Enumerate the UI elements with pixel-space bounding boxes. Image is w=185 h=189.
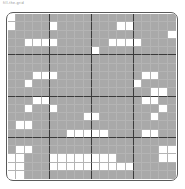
grid-cell[interactable] bbox=[100, 130, 108, 138]
grid-cell[interactable] bbox=[134, 113, 142, 121]
grid-cell[interactable] bbox=[50, 146, 58, 154]
grid-cell[interactable] bbox=[33, 14, 41, 22]
grid-cell[interactable] bbox=[16, 39, 24, 47]
grid-cell[interactable] bbox=[58, 88, 66, 96]
grid-cell[interactable] bbox=[75, 121, 83, 129]
grid-cell[interactable] bbox=[84, 97, 92, 105]
grid-cell[interactable] bbox=[134, 47, 142, 55]
grid-cell[interactable] bbox=[75, 14, 83, 22]
grid-cell[interactable] bbox=[151, 88, 159, 96]
grid-cell[interactable] bbox=[58, 22, 66, 30]
grid-cell[interactable] bbox=[58, 163, 66, 171]
grid-cell[interactable] bbox=[117, 80, 125, 88]
grid-cell[interactable] bbox=[8, 88, 16, 96]
grid-cell[interactable] bbox=[50, 14, 58, 22]
grid-cell[interactable] bbox=[84, 47, 92, 55]
grid-cell[interactable] bbox=[159, 88, 167, 96]
grid-cell[interactable] bbox=[92, 64, 100, 72]
grid-cell[interactable] bbox=[33, 130, 41, 138]
grid-cell[interactable] bbox=[42, 138, 50, 146]
grid-cell[interactable] bbox=[75, 39, 83, 47]
grid-cell[interactable] bbox=[100, 64, 108, 72]
grid-cell[interactable] bbox=[109, 105, 117, 113]
grid-cell[interactable] bbox=[100, 72, 108, 80]
grid-cell[interactable] bbox=[168, 14, 176, 22]
grid-cell[interactable] bbox=[50, 72, 58, 80]
grid-cell[interactable] bbox=[159, 105, 167, 113]
grid-cell[interactable] bbox=[8, 163, 16, 171]
grid-cell[interactable] bbox=[16, 88, 24, 96]
grid-cell[interactable] bbox=[67, 97, 75, 105]
grid-cell[interactable] bbox=[67, 55, 75, 63]
grid-cell[interactable] bbox=[109, 97, 117, 105]
grid-cell[interactable] bbox=[134, 146, 142, 154]
grid-cell[interactable] bbox=[58, 121, 66, 129]
grid-cell[interactable] bbox=[142, 72, 150, 80]
grid-cell[interactable] bbox=[33, 47, 41, 55]
grid-cell[interactable] bbox=[25, 72, 33, 80]
grid-cell[interactable] bbox=[126, 146, 134, 154]
grid-cell[interactable] bbox=[84, 113, 92, 121]
grid-cell[interactable] bbox=[168, 39, 176, 47]
grid-cell[interactable] bbox=[25, 22, 33, 30]
grid-cell[interactable] bbox=[25, 105, 33, 113]
grid-cell[interactable] bbox=[84, 146, 92, 154]
grid-cell[interactable] bbox=[67, 88, 75, 96]
grid-cell[interactable] bbox=[134, 88, 142, 96]
grid-cell[interactable] bbox=[168, 31, 176, 39]
grid-cell[interactable] bbox=[117, 55, 125, 63]
grid-cell[interactable] bbox=[8, 47, 16, 55]
grid-cell[interactable] bbox=[142, 88, 150, 96]
grid-cell[interactable] bbox=[33, 31, 41, 39]
grid-cell[interactable] bbox=[109, 146, 117, 154]
grid-cell[interactable] bbox=[109, 31, 117, 39]
grid-cell[interactable] bbox=[142, 80, 150, 88]
grid-cell[interactable] bbox=[33, 55, 41, 63]
grid-cell[interactable] bbox=[126, 121, 134, 129]
grid-cell[interactable] bbox=[42, 14, 50, 22]
grid-cell[interactable] bbox=[16, 22, 24, 30]
grid-cell[interactable] bbox=[100, 88, 108, 96]
grid-cell[interactable] bbox=[8, 55, 16, 63]
grid-cell[interactable] bbox=[100, 31, 108, 39]
grid-cell[interactable] bbox=[168, 80, 176, 88]
grid-cell[interactable] bbox=[25, 113, 33, 121]
grid-cell[interactable] bbox=[151, 55, 159, 63]
grid-cell[interactable] bbox=[42, 31, 50, 39]
grid-cell[interactable] bbox=[117, 130, 125, 138]
grid-cell[interactable] bbox=[42, 154, 50, 162]
grid-cell[interactable] bbox=[109, 39, 117, 47]
grid-cell[interactable] bbox=[67, 14, 75, 22]
grid-cell[interactable] bbox=[75, 64, 83, 72]
grid-cell[interactable] bbox=[16, 138, 24, 146]
grid-cell[interactable] bbox=[58, 64, 66, 72]
grid-cell[interactable] bbox=[126, 39, 134, 47]
grid-cell[interactable] bbox=[16, 72, 24, 80]
grid-cell[interactable] bbox=[16, 154, 24, 162]
grid-cell[interactable] bbox=[25, 121, 33, 129]
grid-cell[interactable] bbox=[16, 80, 24, 88]
grid-cell[interactable] bbox=[50, 80, 58, 88]
grid-cell[interactable] bbox=[50, 138, 58, 146]
grid-cell[interactable] bbox=[134, 72, 142, 80]
grid-cell[interactable] bbox=[109, 121, 117, 129]
grid-cell[interactable] bbox=[168, 64, 176, 72]
grid-cell[interactable] bbox=[92, 22, 100, 30]
grid-cell[interactable] bbox=[159, 64, 167, 72]
grid-cell[interactable] bbox=[42, 64, 50, 72]
grid-cell[interactable] bbox=[126, 105, 134, 113]
grid-cell[interactable] bbox=[126, 97, 134, 105]
grid-cell[interactable] bbox=[42, 55, 50, 63]
grid-cell[interactable] bbox=[117, 113, 125, 121]
grid-cell[interactable] bbox=[159, 171, 167, 179]
grid-cell[interactable] bbox=[50, 113, 58, 121]
grid-cell[interactable] bbox=[117, 154, 125, 162]
grid-cell[interactable] bbox=[92, 39, 100, 47]
grid-cell[interactable] bbox=[159, 138, 167, 146]
grid-cell[interactable] bbox=[58, 146, 66, 154]
grid-cell[interactable] bbox=[16, 14, 24, 22]
grid-cell[interactable] bbox=[58, 97, 66, 105]
grid-cell[interactable] bbox=[84, 130, 92, 138]
grid-cell[interactable] bbox=[159, 22, 167, 30]
grid-cell[interactable] bbox=[42, 88, 50, 96]
